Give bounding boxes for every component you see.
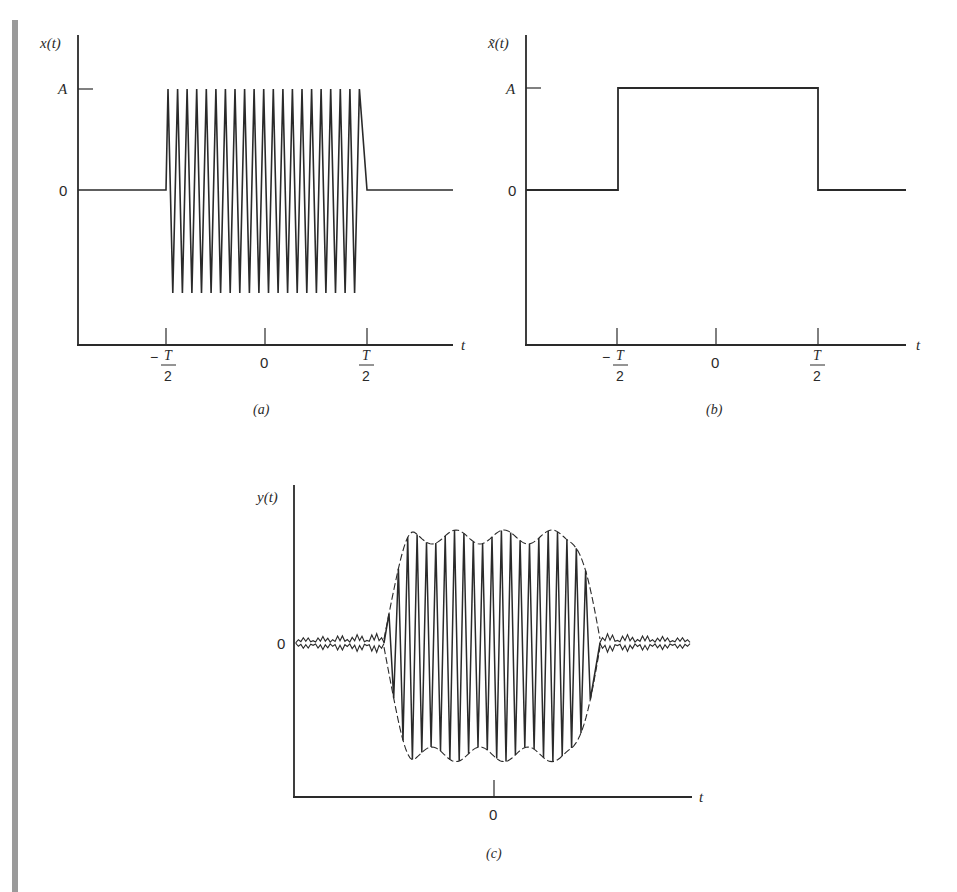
svg-text:T: T: [813, 348, 822, 363]
panel-b-xlabel: t: [916, 337, 921, 353]
panel-c-caption: (c): [486, 846, 502, 862]
panel-b: x̃(t) A 0 t 0 − T 2 T 2 (b): [487, 35, 921, 418]
svg-text:T: T: [362, 348, 371, 363]
svg-text:2: 2: [616, 368, 624, 384]
svg-text:−: −: [602, 349, 610, 365]
panel-a-ytick-0: 0: [59, 182, 67, 199]
panel-a-xlabel: t: [461, 337, 466, 353]
panel-a-signal: [78, 89, 453, 293]
svg-text:2: 2: [813, 368, 821, 384]
panel-c-ylabel: y(t): [255, 489, 278, 506]
panel-b-signal: [526, 88, 906, 190]
figure: x(t) A 0 t 0 − T 2 T 2 (a) x̃(t) A 0 t 0…: [0, 0, 957, 892]
svg-text:T: T: [164, 348, 173, 363]
panel-c-signal: [384, 530, 600, 762]
panel-a-xtick-0: 0: [260, 354, 268, 371]
svg-text:T: T: [616, 348, 625, 363]
panel-c-ytick-0: 0: [277, 635, 285, 652]
panel-b-ylabel: x̃(t): [487, 35, 509, 52]
panel-b-ytick-0: 0: [508, 182, 516, 199]
svg-text:−: −: [150, 349, 158, 365]
panel-a-xtick-neg-half-T: − T 2: [150, 348, 176, 384]
panel-a-ylabel: x(t): [39, 35, 61, 52]
panel-b-xtick-pos-half-T: T 2: [810, 348, 825, 384]
panel-c: y(t) 0 t 0 (c): [255, 485, 704, 862]
svg-text:2: 2: [164, 368, 172, 384]
panel-a-caption: (a): [253, 402, 270, 418]
panel-c-axes: [293, 485, 692, 798]
panel-a-xtick-pos-half-T: T 2: [359, 348, 374, 384]
panel-c-xlabel: t: [699, 789, 704, 805]
panel-b-xtick-neg-half-T: − T 2: [602, 348, 628, 384]
panel-b-xtick-0: 0: [711, 354, 719, 371]
svg-text:2: 2: [362, 368, 370, 384]
panel-b-ytick-A: A: [505, 81, 516, 97]
panel-c-residual-ringing: [296, 634, 690, 653]
panel-a: x(t) A 0 t 0 − T 2 T 2 (a): [39, 35, 466, 418]
panel-c-xtick-0: 0: [489, 806, 497, 823]
panel-b-caption: (b): [706, 402, 723, 418]
panel-a-ytick-A: A: [57, 81, 68, 97]
